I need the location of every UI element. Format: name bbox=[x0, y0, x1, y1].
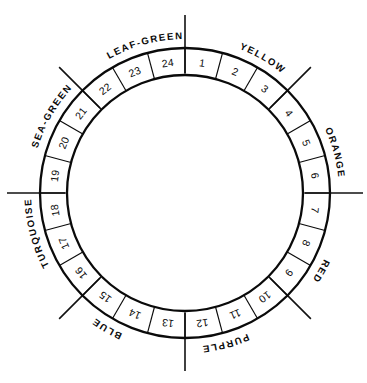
segment-number-11: 11 bbox=[228, 307, 243, 322]
segment-divider-10 bbox=[268, 276, 287, 295]
segment-number-24: 24 bbox=[161, 56, 175, 69]
color-wheel-diagram: 123456789101112131415161718192021222324 … bbox=[0, 0, 367, 383]
segment-number-12: 12 bbox=[195, 317, 209, 330]
segment-divider-6 bbox=[299, 155, 325, 162]
segment-divider-11 bbox=[244, 295, 258, 318]
segment-number-20: 20 bbox=[56, 135, 72, 151]
segment-number-23: 23 bbox=[127, 64, 143, 80]
segment-divider-23 bbox=[113, 67, 127, 90]
segment-number-7: 7 bbox=[309, 206, 322, 214]
segment-divider-2 bbox=[216, 53, 223, 79]
segment-number-2: 2 bbox=[230, 65, 240, 78]
segment-divider-12 bbox=[216, 307, 223, 333]
segment-number-8: 8 bbox=[300, 238, 313, 248]
segment-divider-9 bbox=[287, 252, 310, 266]
segment-divider-14 bbox=[147, 307, 154, 333]
segment-number-13: 13 bbox=[161, 317, 175, 330]
segment-divider-17 bbox=[59, 252, 82, 266]
segment-dividers-group bbox=[40, 48, 330, 338]
segment-number-22: 22 bbox=[97, 80, 114, 97]
segment-number-9: 9 bbox=[283, 267, 296, 279]
segment-number-3: 3 bbox=[259, 82, 271, 95]
segment-divider-20 bbox=[45, 155, 71, 162]
color-family-label-text: ORANGE bbox=[323, 125, 347, 178]
segment-number-14: 14 bbox=[127, 307, 143, 323]
segment-divider-8 bbox=[299, 224, 325, 231]
color-family-label-orange: ORANGE bbox=[323, 125, 347, 178]
segment-divider-21 bbox=[59, 121, 82, 135]
color-wheel-canvas: 123456789101112131415161718192021222324 … bbox=[0, 0, 367, 383]
segment-divider-5 bbox=[287, 121, 310, 135]
segment-number-15: 15 bbox=[97, 289, 114, 306]
segment-number-6: 6 bbox=[309, 172, 322, 180]
segment-number-10: 10 bbox=[257, 289, 274, 306]
segment-divider-16 bbox=[82, 276, 101, 295]
segment-number-5: 5 bbox=[300, 138, 313, 148]
color-family-label-blue: BLUE bbox=[89, 316, 123, 342]
segment-divider-15 bbox=[113, 295, 127, 318]
segment-number-19: 19 bbox=[48, 169, 61, 183]
segment-number-1: 1 bbox=[198, 56, 206, 69]
segment-number-18: 18 bbox=[48, 203, 61, 217]
segment-divider-3 bbox=[244, 67, 258, 90]
segment-number-17: 17 bbox=[56, 235, 72, 251]
segment-divider-18 bbox=[45, 224, 71, 231]
color-family-label-text: BLUE bbox=[89, 316, 123, 342]
segment-divider-4 bbox=[268, 90, 287, 109]
segment-number-16: 16 bbox=[72, 265, 89, 282]
segment-number-21: 21 bbox=[72, 105, 89, 122]
segment-divider-24 bbox=[147, 53, 154, 79]
inner-ring-circle bbox=[67, 75, 303, 311]
segment-divider-22 bbox=[82, 90, 101, 109]
segment-number-4: 4 bbox=[283, 107, 296, 119]
